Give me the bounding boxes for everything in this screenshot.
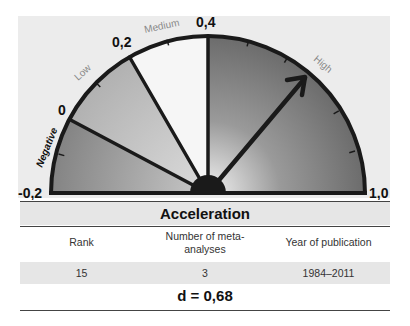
zone-label-low: Low [72, 62, 94, 83]
zone-label-medium: Medium [143, 17, 180, 35]
tick-label-zero: 0 [58, 102, 66, 118]
table-title: Acceleration [20, 202, 390, 225]
tick-label-neg02: -0,2 [18, 185, 42, 200]
zone-label-high: High [312, 53, 335, 75]
tick-label-p02: 0,2 [112, 34, 132, 50]
cell-year: 1984–2011 [267, 262, 390, 284]
cell-meta-analyses: 3 [143, 262, 267, 284]
tick-label-p10: 1,0 [369, 185, 389, 200]
effect-size-gauge: -0,2 0 0,2 0,4 1,0 Negative Low Medium H… [0, 0, 410, 200]
tick-label-p04: 0,4 [196, 14, 216, 30]
header-meta-line2: analyses [143, 243, 267, 256]
cell-rank: 15 [20, 262, 143, 284]
divider-title [20, 226, 390, 227]
header-year: Year of publication [267, 236, 390, 249]
header-meta-line1: Number of meta- [143, 230, 267, 243]
header-rank: Rank [20, 236, 143, 249]
header-meta-analyses: Number of meta- analyses [143, 230, 267, 256]
effect-size-value: d = 0,68 [20, 286, 390, 306]
divider-bottom [20, 310, 390, 311]
